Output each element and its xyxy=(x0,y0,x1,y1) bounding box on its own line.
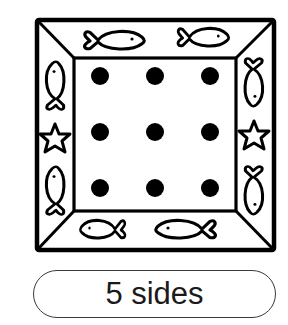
dot xyxy=(91,67,109,85)
fish-icon xyxy=(245,58,263,106)
fish-icon xyxy=(245,166,263,214)
fish-icon xyxy=(178,28,229,46)
dot xyxy=(91,123,109,141)
dot xyxy=(201,123,219,141)
fish-icon xyxy=(80,220,125,238)
dot xyxy=(201,179,219,197)
answer-label-pill[interactable]: 5 sides xyxy=(33,270,276,318)
dot xyxy=(146,67,164,85)
fish-icon xyxy=(46,167,64,215)
fish-icon xyxy=(156,220,216,238)
dot xyxy=(146,179,164,197)
fish-frame-figure xyxy=(0,0,288,260)
dot xyxy=(146,123,164,141)
dot xyxy=(201,67,219,85)
dot xyxy=(91,179,109,197)
answer-label-text: 5 sides xyxy=(105,276,203,312)
fish-icon xyxy=(85,31,145,49)
fish-icon xyxy=(46,62,64,110)
